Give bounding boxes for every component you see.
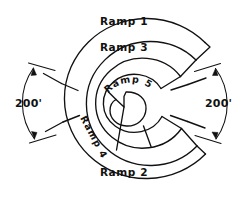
ramp-4-label: Ramp 4 xyxy=(78,114,110,161)
dimension-right: 200' xyxy=(195,64,233,144)
ramp-2-label: Ramp 2 xyxy=(100,166,148,178)
ramp-diagram: 200' 200' Ramp 1 Ramp 3 Ramp 5 Ramp 4 Ra… xyxy=(0,0,249,199)
ramp-1-label: Ramp 1 xyxy=(100,15,148,27)
inner-core-outline xyxy=(109,92,147,130)
dimension-right-label: 200' xyxy=(205,97,232,110)
dimension-left-label: 200' xyxy=(15,97,42,110)
dimension-left: 200' xyxy=(15,63,56,143)
ramp-3-label: Ramp 3 xyxy=(100,41,148,53)
